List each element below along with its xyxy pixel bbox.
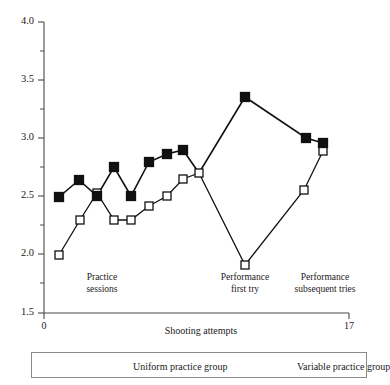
x-tick-label-0: 0 bbox=[38, 320, 50, 331]
legend-label-variable: Variable practice group bbox=[297, 361, 390, 372]
x-tick-label-17: 17 bbox=[340, 320, 358, 331]
y-tick-label-3-0: 3.0 bbox=[4, 131, 34, 142]
series-markers-variable bbox=[55, 93, 328, 202]
x-axis-ticks bbox=[44, 313, 349, 319]
y-tick-label-4-0: 4.0 bbox=[4, 15, 34, 26]
chart-legend: Uniform practice group Variable practice… bbox=[31, 352, 367, 378]
series-line-variable bbox=[59, 97, 323, 197]
annotation-practice-line1: Practice bbox=[62, 272, 142, 284]
annotation-subsequent-line1: Performance bbox=[280, 272, 370, 284]
series-markers-uniform bbox=[55, 147, 327, 269]
y-tick-label-2-5: 2.5 bbox=[4, 189, 34, 200]
annotation-practice-sessions: Practice sessions bbox=[62, 272, 142, 295]
y-tick-label-2-0: 2.0 bbox=[4, 247, 34, 258]
legend-entry-variable: Variable practice group bbox=[292, 353, 390, 379]
y-axis-minor-ticks bbox=[40, 51, 44, 283]
legend-entry-uniform: Uniform practice group bbox=[128, 353, 227, 379]
annotation-first-try-line1: Performance bbox=[204, 272, 286, 284]
x-axis-title: Shooting attempts bbox=[141, 325, 261, 336]
legend-label-uniform: Uniform practice group bbox=[133, 361, 227, 372]
annotation-subsequent-line2: subsequent tries bbox=[280, 284, 370, 296]
y-tick-label-3-5: 3.5 bbox=[4, 73, 34, 84]
annotation-first-try-line2: first try bbox=[204, 284, 286, 296]
annotation-performance-first-try: Performance first try bbox=[204, 272, 286, 295]
annotation-performance-subsequent-tries: Performance subsequent tries bbox=[280, 272, 370, 295]
series-line-uniform bbox=[59, 151, 323, 265]
y-tick-label-1-5: 1.5 bbox=[4, 306, 34, 317]
annotation-practice-line2: sessions bbox=[62, 284, 142, 296]
